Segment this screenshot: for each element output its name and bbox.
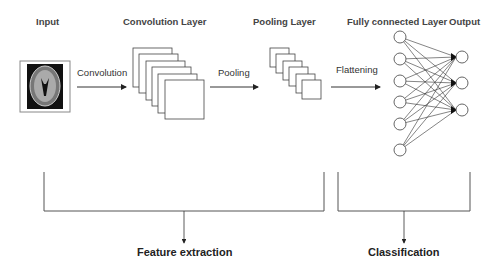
pooling-label: Pooling: [218, 67, 250, 78]
feature-extraction-label: Feature extraction: [137, 246, 232, 258]
input-header: Input: [36, 16, 59, 27]
pool-header: Pooling Layer: [253, 16, 316, 27]
output-nodes: [456, 51, 468, 116]
classification-label: Classification: [368, 246, 440, 258]
pool-feature-maps: [270, 48, 321, 99]
fc-nodes: [394, 31, 406, 156]
fc-header: Fully connected Layer: [347, 16, 447, 27]
classification-bracket: [338, 172, 470, 211]
cnn-diagram: [0, 0, 496, 270]
feature-extraction-bracket: [44, 172, 324, 211]
flattening-label: Flattening: [336, 64, 378, 75]
conv-header: Convolution Layer: [123, 16, 206, 27]
fc-connections: [400, 37, 456, 150]
input-mri-image: [20, 61, 70, 112]
convolution-label: Convolution: [77, 67, 127, 78]
conv-feature-maps: [133, 48, 204, 119]
output-header: Output: [449, 16, 480, 27]
